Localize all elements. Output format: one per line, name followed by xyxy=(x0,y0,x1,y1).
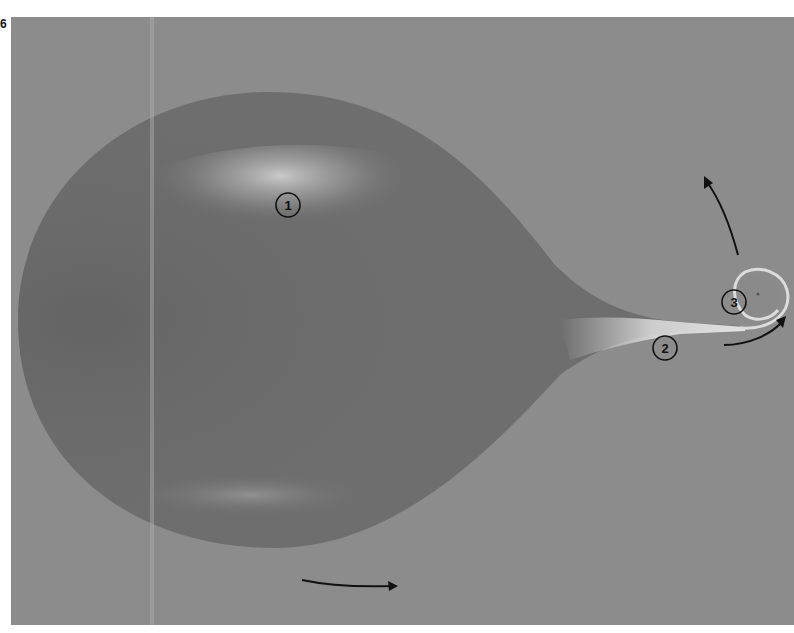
upper-arrow xyxy=(704,176,738,255)
upper-glow xyxy=(110,145,490,285)
svg-text:3: 3 xyxy=(730,295,737,310)
svg-text:1: 1 xyxy=(284,198,291,213)
figure-number: 6 xyxy=(0,18,7,30)
bottom-arrow xyxy=(302,580,398,591)
tail-streak xyxy=(560,317,745,360)
vortex-center xyxy=(757,293,760,296)
label-2: 2 xyxy=(653,336,677,360)
svg-text:2: 2 xyxy=(661,341,668,356)
scan-line xyxy=(150,17,154,625)
lower-glow xyxy=(130,473,370,517)
figure-panel: 1 2 3 xyxy=(11,17,794,625)
